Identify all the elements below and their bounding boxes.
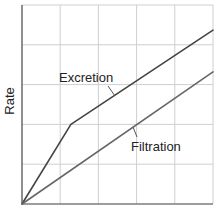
series-group <box>22 30 213 204</box>
rate-chart: Excretion Filtration Rate <box>0 0 216 215</box>
series-line-excretion <box>22 30 213 204</box>
series-line-filtration <box>22 72 213 204</box>
annotations: Excretion Filtration <box>59 70 181 154</box>
grid <box>22 5 213 204</box>
y-axis-label: Rate <box>2 87 17 114</box>
axes <box>22 5 213 204</box>
filtration-label: Filtration <box>131 139 181 154</box>
excretion-leader-line <box>108 86 115 96</box>
excretion-label: Excretion <box>59 70 113 85</box>
